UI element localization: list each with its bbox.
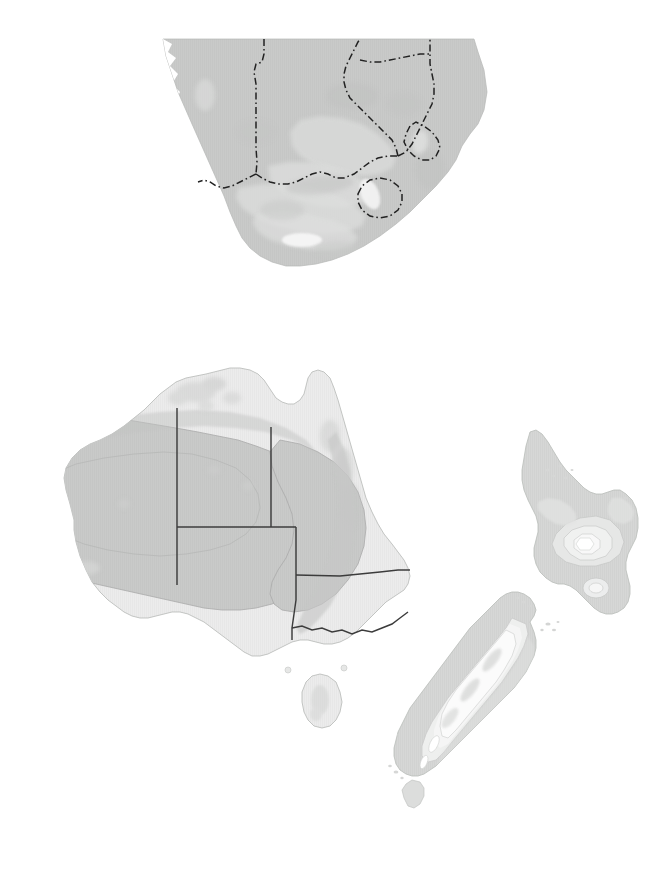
africa-cape-fold-highlight [282, 233, 322, 247]
north-island-volcanic-plateau [576, 538, 594, 550]
africa-namib-shadow [195, 79, 215, 111]
king-island [285, 667, 291, 673]
species-distribution-map: Southern Africa Australia New Zealand Re… [0, 0, 665, 888]
flinders-island [341, 665, 347, 671]
map-canvas [0, 0, 665, 888]
north-island-contour-south-inner [589, 583, 603, 593]
